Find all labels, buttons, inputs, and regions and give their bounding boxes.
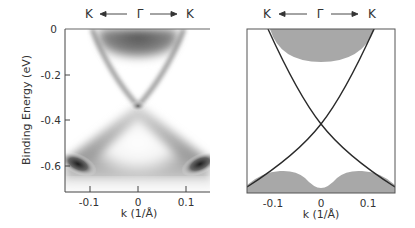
arrow-right-icon	[331, 12, 358, 17]
x-tick-label: -0.1	[263, 197, 284, 209]
y-tick-label: -0.6	[41, 160, 62, 172]
schematic-panel: K Γ K -0.1 0 0.1 k (1/Å)	[247, 7, 395, 221]
y-tick-label: -0.4	[41, 114, 62, 126]
arrow-left-icon	[279, 12, 307, 17]
top-label-gamma: Γ	[137, 7, 144, 21]
y-tick-label: 0	[50, 23, 57, 35]
arpes-heatmap	[56, 29, 223, 194]
top-label-k-right: K	[368, 7, 377, 21]
top-label-k-left: K	[85, 7, 94, 21]
top-label-gamma: Γ	[317, 7, 324, 21]
arpes-panel: K Γ K	[20, 7, 222, 220]
left-x-axis-label: k (1/Å)	[121, 207, 158, 220]
arrow-right-icon	[150, 12, 177, 17]
x-tick-label: -0.1	[79, 196, 100, 208]
arrow-left-icon	[100, 12, 127, 17]
schematic-plot-area	[247, 29, 395, 193]
figure: K Γ K	[0, 0, 415, 228]
x-tick-label: 0.1	[178, 196, 195, 208]
y-tick-label: -0.2	[41, 69, 62, 81]
top-label-k-right: K	[186, 7, 195, 21]
right-x-axis-label: k (1/Å)	[303, 208, 340, 221]
y-axis-label: Binding Energy (eV)	[20, 55, 33, 165]
top-label-k-left: K	[263, 7, 272, 21]
x-tick-label: 0.1	[360, 197, 377, 209]
